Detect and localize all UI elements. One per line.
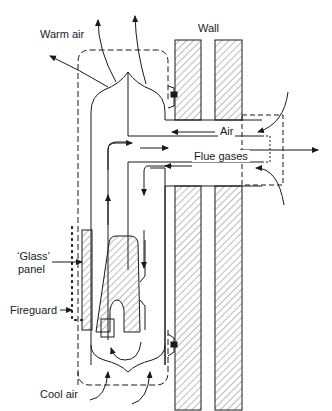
label-warm-air: Warm air: [40, 28, 84, 40]
label-glass-panel-1: ‘Glass’: [17, 250, 50, 262]
label-flue-gases: Flue gases: [192, 150, 250, 162]
label-glass-panel-2: panel: [18, 263, 45, 275]
glass-panel: [82, 230, 92, 330]
fireguard: [72, 227, 82, 320]
balanced-flue-heater-diagram: [0, 0, 332, 411]
label-air: Air: [218, 125, 235, 137]
label-wall: Wall: [198, 22, 219, 34]
label-fireguard: Fireguard: [10, 304, 57, 316]
fuel-bed: [96, 236, 140, 332]
wall: [175, 40, 242, 410]
label-cool-air: Cool air: [40, 388, 78, 400]
